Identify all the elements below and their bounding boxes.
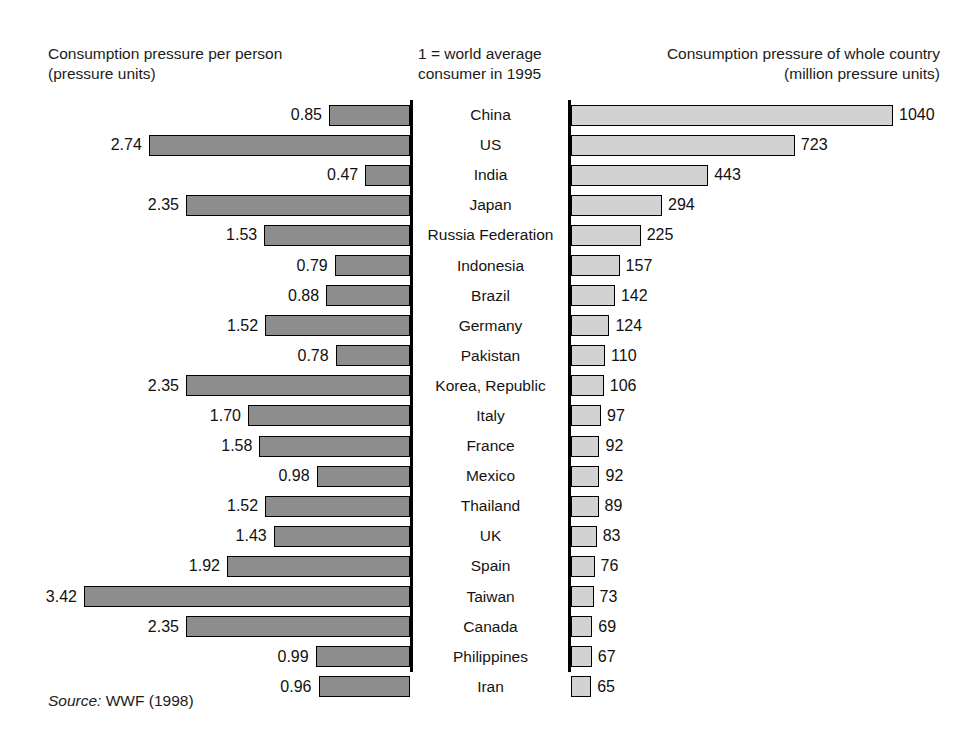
- bar-row-whole-country: 67: [568, 642, 973, 672]
- category-label-india: India: [474, 166, 508, 184]
- bar-row-per-person: 1.58: [0, 431, 413, 461]
- bar-value-label-per-person: 0.79: [297, 257, 328, 275]
- bar-row-per-person: 2.35: [0, 190, 413, 220]
- bar-whole-country: [571, 496, 599, 517]
- bar-value-label-whole-country: 89: [605, 497, 623, 515]
- category-label-brazil: Brazil: [471, 287, 510, 305]
- source-text: WWF (1998): [101, 692, 193, 709]
- category-row: Pakistan: [413, 341, 568, 371]
- category-label-japan: Japan: [469, 196, 511, 214]
- category-row: Japan: [413, 190, 568, 220]
- bar-value-label-whole-country: 106: [610, 377, 637, 395]
- bar-value-label-per-person: 2.35: [148, 196, 179, 214]
- bar-per-person: [319, 676, 411, 697]
- bar-value-label-whole-country: 83: [603, 527, 621, 545]
- bar-value-label-per-person: 1.92: [189, 557, 220, 575]
- bar-row-per-person: 0.98: [0, 461, 413, 491]
- header-left-axis-title: Consumption pressure per person (pressur…: [48, 44, 378, 84]
- bar-whole-country: [571, 165, 708, 186]
- bar-value-label-whole-country: 1040: [899, 106, 935, 124]
- category-label-china: China: [470, 106, 511, 124]
- bar-row-whole-country: 92: [568, 431, 973, 461]
- category-row: Brazil: [413, 281, 568, 311]
- bar-per-person: [316, 646, 410, 667]
- bar-per-person: [274, 526, 410, 547]
- bar-per-person: [248, 405, 410, 426]
- bar-value-label-per-person: 2.35: [148, 618, 179, 636]
- bar-row-whole-country: 83: [568, 521, 973, 551]
- category-row: Mexico: [413, 461, 568, 491]
- category-row: Iran: [413, 672, 568, 702]
- category-label-france: France: [466, 437, 514, 455]
- bar-row-per-person: 2.35: [0, 612, 413, 642]
- bar-row-per-person: 1.70: [0, 401, 413, 431]
- category-label-russia-federation: Russia Federation: [428, 226, 554, 244]
- bar-value-label-whole-country: 73: [600, 588, 618, 606]
- category-label-indonesia: Indonesia: [457, 257, 524, 275]
- bar-value-label-per-person: 1.52: [227, 317, 258, 335]
- category-row: Thailand: [413, 491, 568, 521]
- category-label-korea-republic: Korea, Republic: [435, 377, 545, 395]
- category-label-thailand: Thailand: [461, 497, 520, 515]
- bar-per-person: [264, 225, 410, 246]
- category-label-pakistan: Pakistan: [461, 347, 520, 365]
- bar-row-whole-country: 97: [568, 401, 973, 431]
- bar-row-per-person: 3.42: [0, 582, 413, 612]
- category-label-taiwan: Taiwan: [466, 588, 514, 606]
- bar-whole-country: [571, 225, 641, 246]
- bar-value-label-whole-country: 92: [605, 437, 623, 455]
- bar-whole-country: [571, 556, 595, 577]
- left-bar-panel: 0.852.740.472.351.530.790.881.520.782.35…: [0, 100, 413, 672]
- bar-per-person: [227, 556, 410, 577]
- bar-row-whole-country: 76: [568, 551, 973, 581]
- bar-row-whole-country: 92: [568, 461, 973, 491]
- category-row: US: [413, 130, 568, 160]
- bar-per-person: [336, 345, 410, 366]
- category-label-mexico: Mexico: [466, 467, 515, 485]
- bar-row-whole-country: 69: [568, 612, 973, 642]
- bar-whole-country: [571, 586, 594, 607]
- bar-row-whole-country: 225: [568, 220, 973, 250]
- category-row: UK: [413, 521, 568, 551]
- category-label-canada: Canada: [463, 618, 517, 636]
- category-row: Philippines: [413, 642, 568, 672]
- category-row: Russia Federation: [413, 220, 568, 250]
- bar-value-label-per-person: 2.74: [111, 136, 142, 154]
- bar-row-whole-country: 443: [568, 160, 973, 190]
- bar-row-whole-country: 723: [568, 130, 973, 160]
- category-row: Taiwan: [413, 582, 568, 612]
- bar-whole-country: [571, 105, 893, 126]
- bar-row-per-person: 1.52: [0, 491, 413, 521]
- bar-per-person: [259, 436, 410, 457]
- bar-row-whole-country: 106: [568, 371, 973, 401]
- bar-row-per-person: 0.99: [0, 642, 413, 672]
- bar-per-person: [335, 255, 410, 276]
- bar-per-person: [317, 466, 410, 487]
- bar-per-person: [326, 285, 410, 306]
- category-row: Italy: [413, 401, 568, 431]
- bar-row-per-person: 1.43: [0, 521, 413, 551]
- bar-per-person: [329, 105, 410, 126]
- bar-whole-country: [571, 315, 609, 336]
- bar-row-per-person: 2.35: [0, 371, 413, 401]
- bar-per-person: [186, 616, 410, 637]
- bar-value-label-whole-country: 124: [615, 317, 642, 335]
- right-bar-panel: 1040723443294225157142124110106979292898…: [568, 100, 973, 672]
- bar-row-whole-country: 73: [568, 582, 973, 612]
- bar-value-label-per-person: 0.98: [278, 467, 309, 485]
- bar-row-whole-country: 124: [568, 311, 973, 341]
- bar-whole-country: [571, 375, 604, 396]
- bar-value-label-per-person: 1.53: [226, 226, 257, 244]
- bar-value-label-per-person: 1.70: [210, 407, 241, 425]
- source-note: Source: WWF (1998): [48, 692, 194, 710]
- bar-value-label-whole-country: 97: [607, 407, 625, 425]
- bar-value-label-whole-country: 142: [621, 287, 648, 305]
- header-center-note: 1 = world average consumer in 1995: [418, 44, 598, 84]
- bar-row-whole-country: 65: [568, 672, 973, 702]
- bar-whole-country: [571, 255, 620, 276]
- category-label-spain: Spain: [471, 557, 511, 575]
- bar-whole-country: [571, 436, 599, 457]
- bar-whole-country: [571, 135, 795, 156]
- bar-row-per-person: 1.53: [0, 220, 413, 250]
- category-label-panel: ChinaUSIndiaJapanRussia FederationIndone…: [413, 100, 568, 672]
